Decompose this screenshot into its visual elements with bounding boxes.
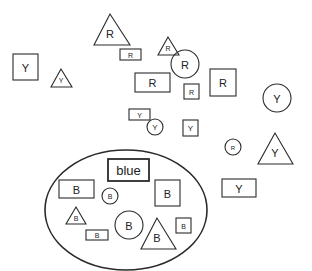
shape-rect-r: R bbox=[184, 84, 199, 99]
shape-label: B bbox=[108, 193, 113, 200]
shape-label: Y bbox=[59, 77, 64, 84]
shape-circle-r: R bbox=[171, 50, 199, 78]
shape-rect-r: R bbox=[135, 73, 170, 92]
shape-label: R bbox=[149, 77, 157, 89]
inner-triangle-b: B bbox=[66, 207, 86, 224]
inner-circle-b: B bbox=[102, 188, 118, 204]
inner-circle-b: B bbox=[115, 211, 143, 239]
shape-rect-r: R bbox=[120, 49, 141, 60]
inner-rect-blue: blue bbox=[108, 159, 149, 181]
shape-label: B bbox=[74, 215, 79, 222]
shape-label: B bbox=[153, 232, 160, 244]
shape-label: B bbox=[164, 188, 171, 200]
inner-rect-b: B bbox=[176, 218, 191, 233]
shape-label: R bbox=[181, 59, 189, 71]
inner-rect-b: B bbox=[86, 230, 108, 240]
shape-label: B bbox=[95, 232, 100, 239]
shape-label: R bbox=[106, 28, 114, 40]
shape-label: blue bbox=[116, 163, 141, 178]
shape-label: B bbox=[125, 220, 132, 232]
shape-circle-y: Y bbox=[147, 119, 163, 135]
inner-triangle-b: B bbox=[141, 218, 176, 249]
shape-triangle-r: R bbox=[94, 14, 130, 45]
shape-diagram: RRYYRRRRRYYYYRYY blueBBBBBBBB bbox=[0, 0, 312, 271]
inner-rect-b: B bbox=[59, 180, 94, 198]
shape-label: Y bbox=[271, 147, 279, 159]
shape-label: R bbox=[219, 77, 227, 89]
shape-circle-r: R bbox=[225, 139, 241, 155]
shape-rect-y: Y bbox=[129, 109, 150, 120]
shape-triangle-y: Y bbox=[258, 133, 293, 164]
shape-label: R bbox=[231, 145, 236, 151]
shape-rect-r: R bbox=[210, 69, 236, 96]
shape-label: Y bbox=[137, 112, 142, 119]
shape-label: Y bbox=[273, 93, 281, 105]
shape-label: Y bbox=[22, 62, 30, 74]
shapes-outside: RRYYRRRRRYYYYRYY bbox=[13, 14, 293, 197]
shape-label: R bbox=[128, 52, 133, 59]
shape-label: B bbox=[73, 184, 80, 196]
shape-label: R bbox=[189, 89, 194, 96]
shape-label: R bbox=[165, 45, 170, 52]
shape-label: Y bbox=[235, 183, 243, 195]
shape-label: Y bbox=[152, 123, 158, 132]
shape-label: B bbox=[181, 223, 186, 230]
shape-circle-y: Y bbox=[263, 84, 291, 112]
inner-rect-b: B bbox=[155, 180, 180, 206]
shape-label: Y bbox=[188, 124, 194, 133]
shape-rect-y: Y bbox=[13, 54, 38, 80]
shape-triangle-y: Y bbox=[51, 69, 72, 87]
shape-rect-y: Y bbox=[222, 179, 256, 197]
shape-rect-y: Y bbox=[183, 120, 198, 136]
shapes-inside-blue-group: blueBBBBBBBB bbox=[59, 159, 191, 249]
shape-triangle-r: R bbox=[158, 37, 179, 55]
